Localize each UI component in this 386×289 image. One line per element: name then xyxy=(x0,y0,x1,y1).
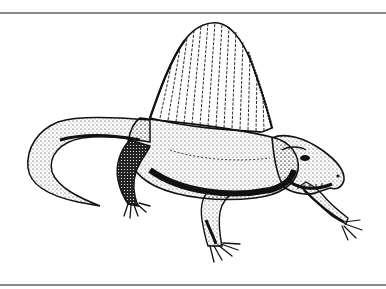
bottom-rule xyxy=(0,284,386,286)
front-leg xyxy=(201,190,240,262)
sail xyxy=(150,22,272,132)
dimetrodon-illustration xyxy=(0,0,386,289)
body xyxy=(127,118,298,200)
far-front-leg xyxy=(300,182,362,240)
